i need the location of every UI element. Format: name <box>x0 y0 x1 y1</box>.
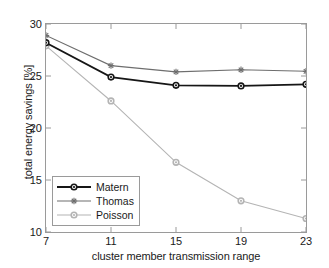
legend-label-poisson: Poisson <box>96 209 133 221</box>
x-tick-label: 19 <box>235 232 247 247</box>
legend-item-poisson: Poisson <box>56 208 134 222</box>
y-tick-label: 25 <box>30 70 46 82</box>
x-tick-label: 15 <box>170 232 182 247</box>
legend-item-thomas: Thomas <box>56 194 134 208</box>
legend-label-thomas: Thomas <box>96 195 134 207</box>
series-matern <box>46 40 306 89</box>
legend-item-matern: Matern <box>56 180 134 194</box>
legend-swatch-matern <box>56 181 92 193</box>
legend-swatch-thomas <box>56 195 92 207</box>
series-thomas <box>46 32 306 75</box>
x-tick-label: 11 <box>105 232 116 247</box>
plot-area: 10 15 20 25 30 7 11 15 19 23 Matern Thom… <box>45 23 307 233</box>
y-tick-label: 30 <box>30 18 46 30</box>
legend-swatch-poisson <box>56 209 92 221</box>
y-tick-label: 15 <box>30 174 46 186</box>
y-tick-label: 20 <box>30 122 46 134</box>
legend-label-matern: Matern <box>96 181 129 193</box>
x-tick-label: 7 <box>43 232 49 247</box>
chart-legend: Matern Thomas Poisson <box>52 176 140 226</box>
x-tick-label: 23 <box>300 232 312 247</box>
chart-figure: total energy savings [%] 10 15 20 25 30 … <box>0 0 329 268</box>
x-axis-label: cluster member transmission range <box>45 250 307 262</box>
